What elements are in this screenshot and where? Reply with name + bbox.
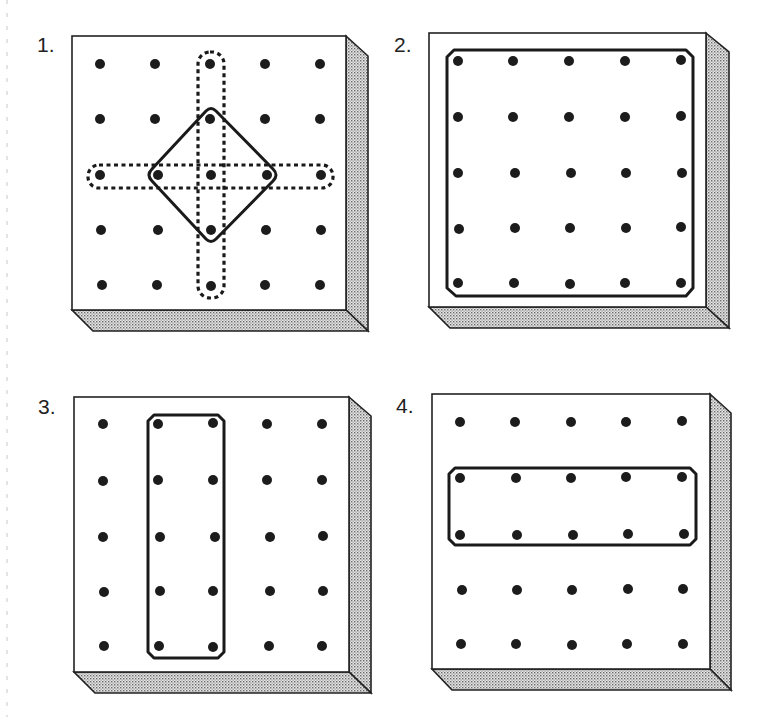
geoboard-figure: 1. 2. 3. (0, 0, 767, 717)
board-2-right-side (706, 33, 729, 328)
geoboard-4: 4. (396, 394, 731, 690)
board-1-right-side (346, 36, 368, 331)
board-4-right-side (710, 394, 731, 690)
geoboard-1: 1. (37, 33, 368, 331)
board-2-bottom-side (429, 307, 729, 328)
board-3-right-side (349, 397, 371, 693)
board-label-2: 2. (394, 33, 412, 56)
board-label-1: 1. (37, 33, 55, 56)
board-label-4: 4. (396, 394, 414, 417)
board-3-bottom-side (74, 672, 371, 693)
board-label-3: 3. (38, 395, 56, 418)
board-1-bottom-side (72, 310, 368, 331)
geoboard-3: 3. (38, 395, 371, 693)
board-4-bottom-side (432, 669, 731, 690)
geoboard-2: 2. (394, 33, 729, 328)
